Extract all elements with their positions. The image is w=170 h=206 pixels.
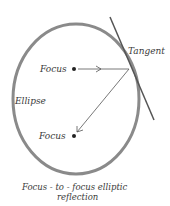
tangent-label: Tangent bbox=[128, 46, 165, 56]
caption-line1: Focus - to - focus elliptic bbox=[21, 182, 128, 192]
ellipse-reflection-diagram: Tangent Focus Focus Ellipse Focus - to -… bbox=[0, 0, 170, 206]
caption-line2: reflection bbox=[57, 192, 98, 202]
focus-bottom-dot bbox=[72, 134, 76, 138]
focus-top-dot bbox=[72, 67, 76, 71]
reflected-ray bbox=[77, 69, 129, 132]
ellipse-label: Ellipse bbox=[14, 96, 46, 106]
focus-top-label: Focus bbox=[39, 64, 67, 74]
focus-bottom-label: Focus bbox=[38, 131, 66, 141]
tangent-line bbox=[110, 17, 154, 120]
